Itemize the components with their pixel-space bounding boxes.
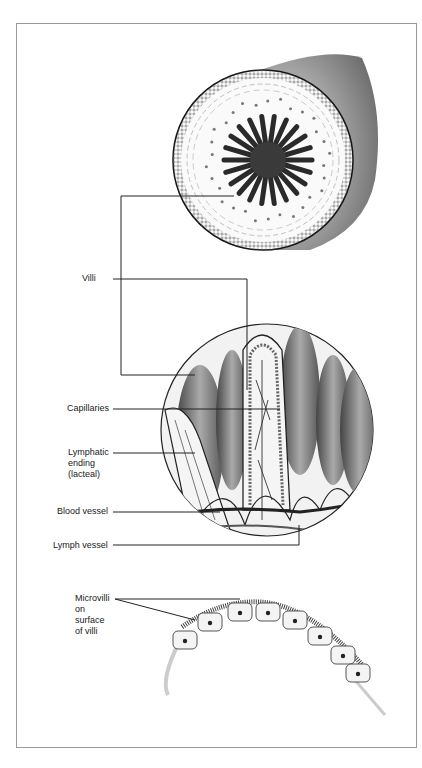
- wall-vessel-dot: [328, 152, 331, 155]
- label-lymph-vessel: Lymph vessel: [53, 540, 108, 551]
- wall-vessel-dot: [312, 117, 315, 120]
- wall-vessel-dot: [301, 206, 304, 209]
- label-microvilli: Microvilli on surface of villi: [75, 593, 110, 637]
- cell-nucleus: [293, 619, 297, 623]
- cell-nucleus: [238, 611, 242, 615]
- villi-magnified-view: [161, 324, 380, 536]
- wall-vessel-dot: [279, 98, 282, 101]
- wall-vessel-dot: [241, 102, 244, 105]
- wall-vessel-dot: [210, 141, 213, 144]
- cell-nucleus: [266, 611, 270, 615]
- wall-vessel-dot: [289, 107, 292, 110]
- diagram-artwork: [0, 0, 422, 768]
- label-villi: Villi: [82, 273, 96, 284]
- wall-vessel-dot: [301, 111, 304, 114]
- wall-vessel-dot: [254, 219, 257, 222]
- wall-vessel-dot: [210, 177, 213, 180]
- wall-vessel-dot: [221, 200, 224, 203]
- label-capillaries: Capillaries: [67, 403, 109, 414]
- wall-vessel-dot: [225, 121, 228, 124]
- intestine-cross-section: [173, 54, 378, 250]
- wall-vessel-dot: [323, 176, 326, 179]
- cell-nucleus: [318, 635, 322, 639]
- microvilli-epithelium: [166, 602, 385, 715]
- label-lacteal: Lymphatic ending (lacteal): [68, 447, 109, 480]
- wall-vessel-dot: [322, 164, 325, 167]
- wall-vessel-dot: [213, 128, 216, 131]
- label-blood-vessel: Blood vessel: [57, 506, 108, 517]
- lumen-core: [250, 142, 286, 178]
- wall-vessel-dot: [211, 153, 214, 156]
- cell-nucleus: [208, 621, 212, 625]
- wall-vessel-dot: [320, 189, 323, 192]
- leader-microvilli-2: [115, 599, 195, 620]
- cell-nucleus: [183, 639, 187, 643]
- wall-vessel-dot: [205, 165, 208, 168]
- cell-nucleus: [356, 672, 360, 676]
- wall-vessel-dot: [292, 215, 295, 218]
- wall-vessel-dot: [255, 104, 258, 107]
- wall-vessel-dot: [232, 111, 235, 114]
- wall-vessel-dot: [266, 100, 269, 103]
- wall-vessel-dot: [278, 213, 281, 216]
- cell-nucleus: [341, 654, 345, 658]
- wall-vessel-dot: [323, 140, 326, 143]
- wall-vessel-dot: [244, 210, 247, 213]
- wall-vessel-dot: [232, 206, 235, 209]
- wall-vessel-dot: [308, 196, 311, 199]
- wall-vessel-dot: [218, 187, 221, 190]
- wall-vessel-dot: [267, 217, 270, 220]
- wall-vessel-dot: [315, 130, 318, 133]
